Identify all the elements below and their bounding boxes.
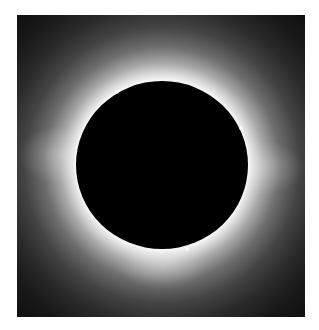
prominence bbox=[239, 126, 243, 130]
prominence bbox=[115, 90, 119, 94]
eclipse-photo bbox=[17, 15, 305, 317]
moon-disk bbox=[76, 81, 248, 249]
prominence bbox=[185, 247, 189, 251]
